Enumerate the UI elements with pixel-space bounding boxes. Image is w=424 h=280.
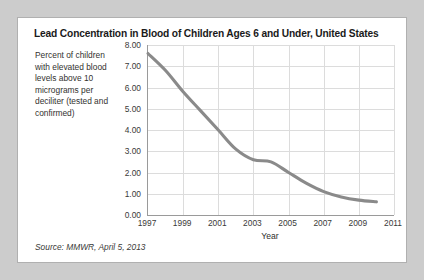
x-tick-label: 2011 [373, 218, 413, 228]
source-note: Source: MMWR, April 5, 2013 [35, 242, 145, 252]
y-tick-label: 3.00 [111, 146, 141, 156]
plot-area: 8.007.006.005.004.003.002.001.000.00 199… [111, 45, 393, 235]
x-tick-label: 2007 [303, 218, 343, 228]
x-tick-label: 2003 [232, 218, 272, 228]
y-tick-label: 4.00 [111, 125, 141, 135]
y-axis-caption: Percent of children with elevated blood … [35, 50, 109, 120]
chart-card: Lead Concentration in Blood of Children … [17, 17, 407, 263]
x-tick-label: 2009 [338, 218, 378, 228]
series-path-line [148, 54, 376, 202]
x-tick-label: 1997 [127, 218, 167, 228]
page-background: Lead Concentration in Blood of Children … [0, 0, 424, 280]
y-axis-tick-labels: 8.007.006.005.004.003.002.001.000.00 [111, 45, 141, 235]
y-tick-label: 1.00 [111, 189, 141, 199]
page-title: Lead Concentration in Blood of Children … [34, 28, 396, 40]
x-axis-title: Year [147, 231, 393, 241]
y-tick-label: 2.00 [111, 168, 141, 178]
y-tick-label: 8.00 [111, 40, 141, 50]
y-tick-label: 7.00 [111, 61, 141, 71]
plot-canvas [147, 45, 394, 216]
x-tick-label: 1999 [162, 218, 202, 228]
x-tick-label: 2001 [197, 218, 237, 228]
x-tick-label: 2005 [268, 218, 308, 228]
y-tick-label: 6.00 [111, 83, 141, 93]
series-line-chart [148, 45, 394, 215]
y-tick-label: 5.00 [111, 104, 141, 114]
vertical-grid-line [394, 45, 395, 215]
x-axis-tick-labels: 19971999200120032005200720092011 [147, 218, 393, 232]
